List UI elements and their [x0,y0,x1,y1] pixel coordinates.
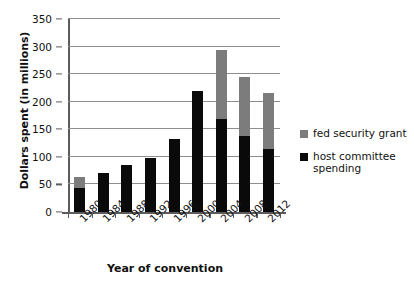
legend-swatch-icon [300,130,308,138]
legend-item[interactable]: host committee spending [300,150,412,174]
y-tick-label: 200 [32,96,52,108]
legend-label: host committee spending [313,150,412,174]
y-axis-tick-labels: 050100150200250300350 [0,19,62,212]
bar-segment-fed-security-grant [74,177,85,188]
y-tick-mark [56,184,62,185]
gridline [68,46,280,47]
bar-segment-host-committee-spending [216,119,227,212]
y-tick-label: 50 [39,178,52,190]
y-tick-mark [56,46,62,47]
legend-label: fed security grant [313,127,407,139]
y-tick-label: 300 [32,41,52,53]
x-tick-mark [68,212,69,218]
y-tick-label: 350 [32,13,52,25]
y-tick-mark [56,101,62,102]
bar-segment-fed-security-grant [216,50,227,119]
gridline [68,73,280,74]
gridline [68,18,280,19]
plot-area [68,19,280,212]
chart-container: Dollars spent (in millions) 050100150200… [0,0,414,287]
y-tick-label: 100 [32,151,52,163]
chart-legend: fed security granthost committee spendin… [300,127,412,185]
y-tick-mark [56,74,62,75]
y-tick-label: 250 [32,68,52,80]
legend-item[interactable]: fed security grant [300,127,412,139]
bar-segment-host-committee-spending [192,91,203,212]
y-tick-mark [56,129,62,130]
x-axis-title: Year of convention [0,262,330,275]
bar-segment-fed-security-grant [263,93,274,149]
y-tick-mark [56,18,62,19]
bar-segment-fed-security-grant [239,77,250,136]
legend-swatch-icon [300,153,308,161]
y-tick-mark [56,156,62,157]
y-tick-label: 150 [32,123,52,135]
y-tick-label: 0 [45,206,52,218]
